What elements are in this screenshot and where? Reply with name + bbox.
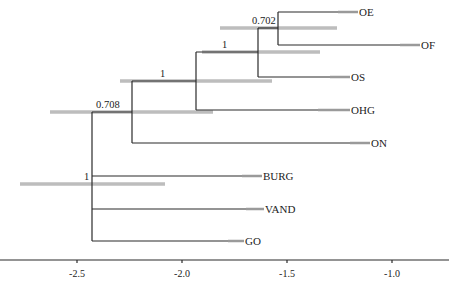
support-node-on: 0.708 [96, 99, 120, 110]
support-node-oe-of-os: 1 [222, 39, 227, 50]
taxon-label-go: GO [245, 235, 261, 247]
hpd-bars [20, 28, 337, 184]
time-axis: -2.5 -2.0 -1.5 -1.0 [0, 260, 449, 279]
axis-tick-label: -1.5 [279, 268, 295, 279]
taxon-label-os: OS [351, 71, 365, 83]
taxon-label-of: OF [421, 39, 435, 51]
taxon-label-vand: VAND [265, 203, 295, 215]
tip-hpd-bars [228, 12, 420, 241]
branches [92, 12, 420, 241]
taxon-label-on: ON [371, 137, 387, 149]
axis-tick-label: -2.5 [69, 268, 85, 279]
taxon-label-oe: OE [359, 6, 374, 18]
tip-labels: OE OF OS OHG ON BURG VAND GO [245, 6, 435, 247]
axis-tick-label: -1.0 [384, 268, 400, 279]
support-node-oe-of: 0.702 [252, 15, 276, 26]
support-values: 0.702 1 1 0.708 1 [84, 15, 276, 182]
support-root: 1 [84, 171, 89, 182]
taxon-label-burg: BURG [263, 170, 294, 182]
axis-tick-label: -2.0 [174, 268, 190, 279]
support-node-ohg: 1 [160, 68, 165, 79]
taxon-label-ohg: OHG [351, 104, 375, 116]
phylogenetic-tree: 0.702 1 1 0.708 1 OE OF OS OHG ON BURG V… [0, 0, 456, 289]
